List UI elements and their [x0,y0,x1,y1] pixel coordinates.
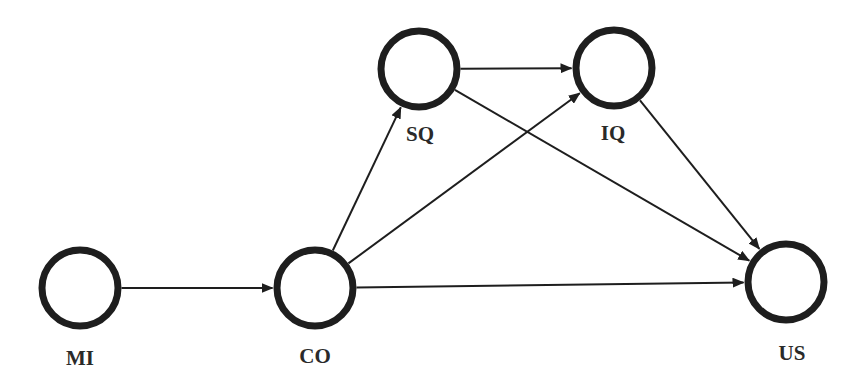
node-iq: IQ [576,30,652,145]
node-label-us: US [779,341,806,365]
node-circle-sq [381,31,457,107]
node-label-iq: IQ [601,121,626,145]
node-circle-iq [576,30,652,106]
node-circle-co [277,250,353,326]
node-mi: MI [42,250,118,370]
node-label-co: CO [299,344,331,368]
node-circle-mi [42,250,118,326]
node-us: US [748,244,824,365]
edge-iq-to-us [640,100,759,249]
node-sq: SQ [381,31,457,146]
path-diagram: MICOSQIQUS [0,0,851,382]
edge-co-to-iq [348,93,579,263]
node-circle-us [748,244,824,320]
edge-co-to-sq [333,107,401,250]
edge-co-to-us [356,283,743,288]
node-co: CO [277,250,353,368]
edge-sq-to-iq [460,68,571,69]
edge-sq-to-us [455,90,749,261]
node-label-mi: MI [66,346,94,370]
node-label-sq: SQ [406,122,434,146]
